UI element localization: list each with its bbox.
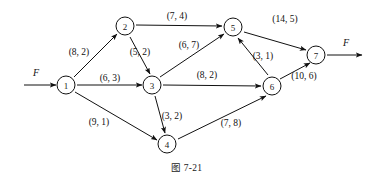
node-label-4: 4 bbox=[165, 140, 170, 150]
edge-5-7 bbox=[244, 32, 306, 50]
source-flow-label: F bbox=[32, 67, 40, 78]
edge-1-4 bbox=[75, 92, 157, 140]
edge-label-3-6: (8, 2) bbox=[197, 70, 218, 81]
edge-3-6 bbox=[163, 85, 261, 86]
node-label-1: 1 bbox=[64, 81, 69, 91]
node-label-7: 7 bbox=[314, 51, 319, 61]
network-flow-graph: 1 2 3 4 5 6 7 (8, 2) (6, 3) (9, 1) (7, 4… bbox=[0, 0, 373, 186]
edge-label-6-7: (10, 6) bbox=[291, 71, 316, 82]
edge-label-3-4: (3, 2) bbox=[162, 111, 183, 122]
edge-label-1-4: (9, 1) bbox=[89, 117, 110, 128]
edge-label-1-2: (8, 2) bbox=[69, 47, 90, 58]
node-label-2: 2 bbox=[123, 22, 128, 32]
edge-2-5 bbox=[136, 25, 222, 26]
edge-label-3-5: (6, 7) bbox=[179, 40, 200, 51]
edge-label-6-5: (3, 1) bbox=[253, 51, 274, 62]
edge-label-1-3: (6, 3) bbox=[100, 73, 121, 84]
figure-caption: 图 7-21 bbox=[0, 160, 373, 174]
node-label-3: 3 bbox=[150, 81, 155, 91]
edge-label-5-7: (14, 5) bbox=[272, 14, 297, 25]
edge-label-2-5: (7, 4) bbox=[167, 11, 188, 22]
edge-label-4-6: (7, 8) bbox=[221, 118, 242, 129]
node-label-6: 6 bbox=[270, 82, 275, 92]
sink-flow-label: F bbox=[342, 37, 350, 48]
network-flow-figure: 1 2 3 4 5 6 7 (8, 2) (6, 3) (9, 1) (7, 4… bbox=[0, 0, 373, 186]
node-label-5: 5 bbox=[231, 23, 236, 33]
edge-label-2-3: (5, 2) bbox=[130, 47, 151, 58]
